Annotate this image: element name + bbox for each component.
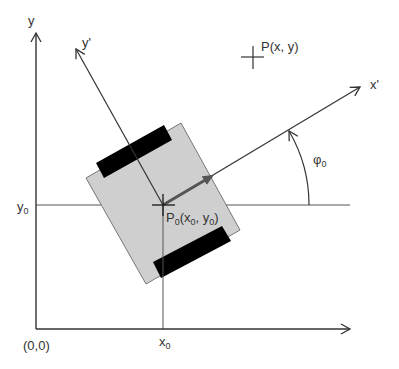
y-prime-axis-label: y'	[82, 35, 91, 50]
robot-kinematics-diagram: y y' x' P(x, y) φ0 y0 x0 (0,0) P0(x0, y0…	[0, 0, 399, 369]
y-axis-label: y	[28, 13, 35, 28]
angle-arc	[289, 131, 309, 205]
x0-label: x0	[159, 334, 171, 351]
x-prime-axis-label: x'	[370, 77, 379, 92]
angle-label: φ0	[313, 152, 326, 169]
point-p-label: P(x, y)	[261, 39, 299, 54]
origin-label: (0,0)	[23, 338, 50, 353]
y0-label: y0	[17, 199, 29, 216]
